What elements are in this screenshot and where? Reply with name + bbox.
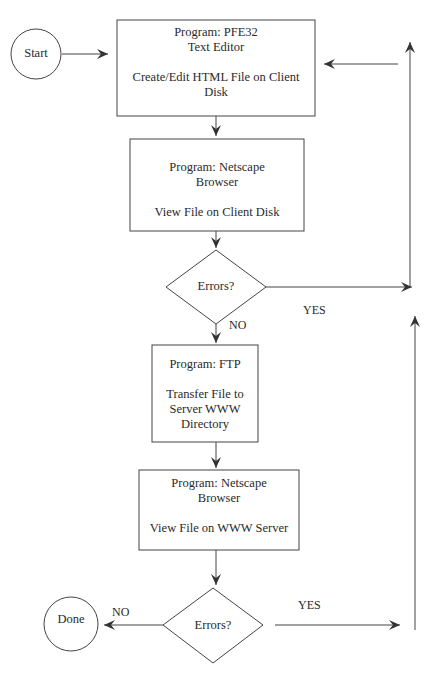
step3-line4: Directory (152, 417, 258, 432)
step2-line1: Program: Netscape (130, 160, 304, 175)
decision2-no-label: NO (112, 605, 129, 620)
decision1-label: Errors? (166, 279, 266, 294)
step1-line1: Program: PFE32 (117, 25, 315, 40)
done-label: Done (44, 612, 98, 627)
step2-line2: Browser (130, 175, 304, 190)
step3-line3: Server WWW (152, 402, 258, 417)
decision1-yes-label: YES (303, 303, 326, 318)
step2-text: Program: Netscape Browser View File on C… (130, 160, 304, 220)
decision1-no-label: NO (229, 318, 246, 333)
flowchart-canvas (0, 0, 435, 680)
step1-line2: Text Editor (117, 40, 315, 55)
step3-line1: Program: FTP (152, 357, 258, 372)
step4-text: Program: Netscape Browser View File on W… (139, 476, 299, 536)
step4-line2: Browser (139, 491, 299, 506)
decision2-label: Errors? (163, 618, 263, 633)
step2-line3: View File on Client Disk (130, 205, 304, 220)
step3-line2: Transfer File to (152, 387, 258, 402)
step1-line3: Create/Edit HTML File on Client (117, 70, 315, 85)
step4-line1: Program: Netscape (139, 476, 299, 491)
step1-text: Program: PFE32 Text Editor Create/Edit H… (117, 25, 315, 100)
step1-line4: Disk (117, 85, 315, 100)
start-label: Start (11, 46, 61, 61)
step4-line3: View File on WWW Server (139, 521, 299, 536)
decision2-yes-label: YES (298, 598, 321, 613)
step3-text: Program: FTP Transfer File to Server WWW… (152, 357, 258, 432)
